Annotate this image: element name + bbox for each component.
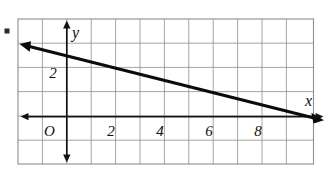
figure-background (0, 0, 332, 179)
y-tick-label-2: 2 (49, 65, 57, 81)
x-tick-label-2: 2 (107, 123, 115, 139)
y-axis-label: y (70, 24, 80, 42)
x-tick-label-8: 8 (254, 123, 262, 139)
x-tick-label-6: 6 (205, 123, 213, 139)
x-tick-label-4: 4 (156, 123, 164, 139)
x-axis-label: x (304, 92, 312, 109)
list-bullet-square-icon (5, 29, 10, 34)
coordinate-plane-figure: y x O 2 4 6 8 2 (0, 0, 332, 179)
figure-page: y x O 2 4 6 8 2 (0, 0, 332, 179)
origin-label: O (44, 123, 55, 139)
